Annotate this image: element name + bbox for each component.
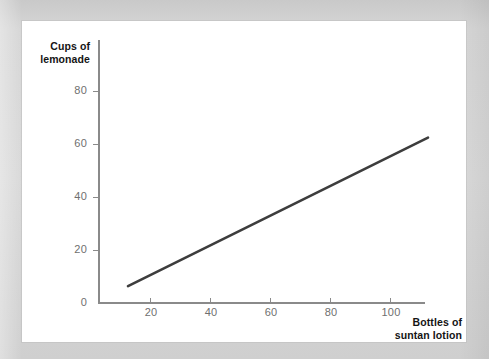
chart-card: 80 60 40 20 0 20 40 60 80 100 Cups of le…	[22, 21, 466, 342]
data-line-lemonade-vs-suntan-lotion	[128, 138, 428, 286]
plot-area: 80 60 40 20 0 20 40 60 80 100 Cups of le…	[22, 21, 466, 342]
figure-page: 80 60 40 20 0 20 40 60 80 100 Cups of le…	[0, 0, 489, 359]
series-layer	[22, 21, 466, 342]
